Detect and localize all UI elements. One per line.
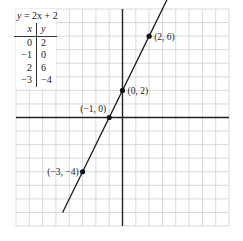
- table-row: 2 6: [14, 62, 57, 75]
- table-header-y: y: [37, 23, 58, 36]
- table-cell-x: 0: [14, 36, 37, 49]
- point-marker: [107, 115, 112, 120]
- graph-line: [63, 0, 170, 212]
- line-y-equals-2x-plus-2: [63, 0, 170, 212]
- point-label: (−1, 0): [80, 104, 106, 115]
- table-cell-x: 2: [14, 62, 37, 75]
- table-cell-x: −1: [14, 49, 37, 62]
- table-row: −1 0: [14, 49, 57, 62]
- point-marker: [147, 34, 152, 39]
- table-header-x: x: [14, 23, 37, 36]
- table-cell-y: 6: [37, 62, 58, 75]
- table-row: −3 −4: [14, 74, 57, 87]
- equation-label: y = 2x + 2: [17, 10, 58, 21]
- point-label: (−3, −4): [47, 167, 78, 178]
- table-cell-y: 0: [37, 49, 58, 62]
- table-cell-x: −3: [14, 74, 37, 87]
- point-marker: [80, 169, 85, 174]
- table-of-values: x y 0 2 −1 0 2 6 −3 −4: [14, 23, 57, 87]
- point-label: (0, 2): [128, 86, 149, 97]
- point-marker: [120, 88, 125, 93]
- table-cell-y: 2: [37, 36, 58, 49]
- table-row: 0 2: [14, 36, 57, 49]
- point-label: (2, 6): [154, 32, 175, 43]
- table-cell-y: −4: [37, 74, 58, 87]
- labeled-points: (2, 6)(0, 2)(−1, 0)(−3, −4): [47, 32, 174, 179]
- equation-rhs: = 2x + 2: [21, 10, 57, 21]
